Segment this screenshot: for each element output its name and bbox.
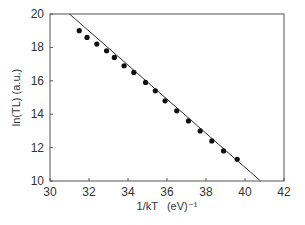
data-point: [174, 108, 179, 113]
plot-series: [70, 14, 261, 181]
chart: 30323436384042101214161820 1/kT (eV)⁻¹ l…: [0, 0, 305, 225]
data-point: [235, 157, 240, 162]
plot-axes: 30323436384042101214161820: [31, 7, 291, 199]
y-axis-label: ln(TL) (a.u.): [10, 69, 22, 126]
x-tick-label: 42: [277, 185, 291, 199]
x-tick-label: 40: [238, 185, 252, 199]
x-tick-label: 30: [43, 185, 57, 199]
y-tick-label: 10: [31, 174, 45, 188]
y-tick-label: 16: [31, 74, 45, 88]
y-tick-label: 12: [31, 141, 45, 155]
x-tick-label: 38: [199, 185, 213, 199]
y-tick-label: 14: [31, 107, 45, 121]
data-point: [186, 118, 191, 123]
data-point: [153, 88, 158, 93]
fit-line: [70, 14, 261, 181]
x-tick-label: 34: [121, 185, 135, 199]
data-point: [122, 63, 127, 68]
data-point: [131, 70, 136, 75]
data-point: [221, 148, 226, 153]
x-tick-label: 36: [160, 185, 174, 199]
data-point: [112, 55, 117, 60]
x-axis-label: 1/kT (eV)⁻¹: [137, 200, 198, 212]
data-point: [84, 35, 89, 40]
data-point: [198, 128, 203, 133]
data-point: [104, 48, 109, 53]
y-tick-label: 20: [31, 7, 45, 21]
data-point: [94, 41, 99, 46]
x-tick-label: 32: [82, 185, 96, 199]
data-point: [77, 28, 82, 33]
data-point: [209, 138, 214, 143]
data-point: [162, 98, 167, 103]
data-point: [143, 80, 148, 85]
y-tick-label: 18: [31, 40, 45, 54]
